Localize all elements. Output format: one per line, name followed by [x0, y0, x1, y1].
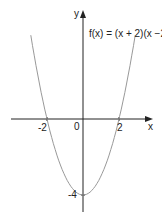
tick-label-neg-two: -2 [38, 123, 47, 133]
y-axis-arrow-icon [80, 10, 86, 18]
tick-label-neg-four: -4 [68, 190, 77, 200]
tick-label-pos-two: 2 [117, 123, 123, 133]
x-axis-label: x [148, 122, 153, 132]
equation-label: f(x) = (x + 2)(x −2) [89, 29, 162, 39]
y-axis-label: y [74, 9, 79, 19]
origin-label: 0 [74, 122, 80, 132]
